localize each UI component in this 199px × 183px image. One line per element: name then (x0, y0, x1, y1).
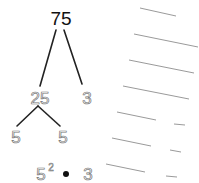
node-25: 25 (31, 89, 50, 108)
ruled-lines (106, 8, 198, 177)
ruled-line (129, 60, 194, 73)
result-base: 5 (36, 165, 45, 183)
factor-tree-diagram: 75 25 3 5 5 5 2 3 (0, 0, 199, 183)
multiply-dot-icon (63, 171, 69, 177)
branch-25-5a (17, 106, 38, 126)
ruled-line (174, 124, 185, 125)
branch-75-3 (64, 30, 82, 84)
ruled-line (134, 34, 198, 47)
ruled-line (140, 8, 176, 16)
ruled-line (112, 138, 151, 146)
ruled-line (166, 176, 177, 177)
branch-75-25 (40, 30, 56, 86)
ruled-line (117, 112, 156, 120)
ruled-line (106, 164, 145, 172)
branch-25-5b (38, 106, 60, 126)
leaf-5-left: 5 (11, 128, 20, 147)
prime-factorization: 5 2 3 (36, 162, 92, 183)
leaf-5-right: 5 (58, 128, 67, 147)
result-factor: 3 (83, 165, 92, 183)
ruled-line (170, 150, 181, 152)
branches (17, 30, 82, 126)
ruled-line (123, 86, 189, 99)
node-3: 3 (82, 89, 91, 108)
result-exponent: 2 (48, 162, 54, 173)
root-node: 75 (50, 8, 71, 29)
